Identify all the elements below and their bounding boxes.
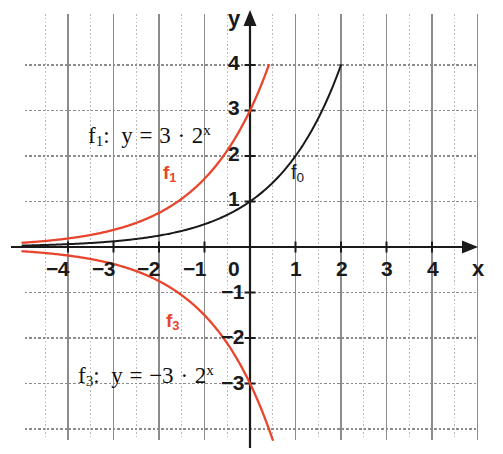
x-tick-label-2: 2	[336, 258, 347, 279]
y-tick-label-1: 1	[228, 188, 239, 209]
formula-f1-base: 2	[192, 123, 204, 148]
formula-f1-exponent: x	[203, 121, 211, 138]
formula-f3-lhs: y	[111, 363, 123, 388]
formula-f3-exponent: x	[206, 361, 214, 378]
formula-f1: f1: y = 3 · 2x	[88, 122, 211, 149]
curve-label-f1: f1	[163, 163, 177, 185]
x-tick-label-neg1: −1	[183, 258, 206, 279]
exponential-function-graph: −4 −3 −2 −1 0 1 2 3 4 4 3 2 1 −1 −2 −3 x…	[0, 0, 503, 454]
curve-label-f3: f3	[166, 311, 180, 333]
curve-label-f0-sub: 0	[297, 170, 305, 185]
formula-f1-equals: =	[138, 123, 153, 148]
x-tick-label-3: 3	[381, 258, 392, 279]
y-tick-label-neg2: −2	[221, 326, 244, 347]
curve-label-f0: f0	[291, 162, 304, 185]
y-tick-label-neg1: −1	[221, 281, 244, 302]
formula-f3-equals: =	[128, 363, 143, 388]
x-tick-label-neg3: −3	[92, 258, 115, 279]
x-tick-label-neg4: −4	[46, 258, 69, 279]
x-axis-name: x	[472, 258, 484, 280]
formula-f3-fname: f	[78, 363, 86, 388]
x-tick-label-4: 4	[427, 258, 438, 279]
formula-f3-base: 2	[195, 363, 207, 388]
curve-label-f3-sub: 3	[172, 318, 179, 333]
formula-f3-coefficient: −3	[149, 363, 173, 388]
x-tick-label-0: 0	[228, 258, 239, 279]
formula-f1-dot: ·	[176, 123, 186, 148]
x-tick-label-neg2: −2	[137, 258, 160, 279]
formula-f1-fname: f	[88, 123, 96, 148]
y-tick-label-4: 4	[228, 52, 239, 73]
formula-f3-colon: :	[93, 363, 99, 388]
formula-f1-lhs: y	[121, 123, 133, 148]
plot-canvas	[0, 0, 503, 454]
formula-f3-dot: ·	[179, 363, 189, 388]
formula-f1-coefficient: 3	[159, 123, 171, 148]
y-axis-name: y	[228, 8, 240, 30]
formula-f1-colon: :	[103, 123, 109, 148]
y-tick-label-neg3: −3	[221, 372, 244, 393]
x-tick-label-1: 1	[290, 258, 301, 279]
formula-f3: f3: y = −3 · 2x	[78, 362, 214, 389]
curve-label-f1-sub: 1	[169, 170, 176, 185]
y-tick-label-2: 2	[228, 143, 239, 164]
y-tick-label-3: 3	[228, 97, 239, 118]
